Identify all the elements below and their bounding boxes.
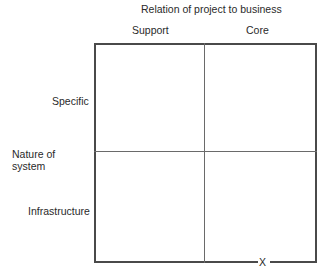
column-label-core: Core xyxy=(246,24,269,36)
matrix-right-border xyxy=(315,43,317,263)
matrix-bottom-border-right xyxy=(270,261,317,263)
matrix-left-border xyxy=(94,43,96,263)
x-marker: X xyxy=(259,256,266,268)
left-axis-title-line2: system xyxy=(12,160,55,172)
column-label-support: Support xyxy=(132,24,169,36)
left-axis-title: Nature of system xyxy=(12,148,55,172)
left-axis-title-line1: Nature of xyxy=(12,148,55,160)
matrix-horizontal-divider xyxy=(94,151,317,152)
matrix-top-border xyxy=(94,43,317,45)
row-label-infrastructure: Infrastructure xyxy=(28,205,90,217)
matrix-bottom-border-left xyxy=(94,261,258,263)
row-label-specific: Specific xyxy=(52,95,89,107)
top-axis-title: Relation of project to business xyxy=(141,3,282,15)
matrix-vertical-divider xyxy=(204,43,205,263)
